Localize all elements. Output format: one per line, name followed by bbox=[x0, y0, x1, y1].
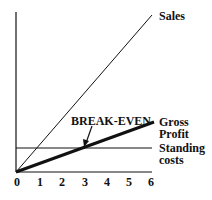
break-even-chart: Sales Gross Profit Standing costs BREAK-… bbox=[0, 0, 212, 200]
break-even-label: BREAK-EVEN bbox=[71, 114, 151, 128]
gross-profit-label-line2: Profit bbox=[159, 127, 189, 141]
x-tick-2: 2 bbox=[59, 175, 65, 189]
x-tick-0: 0 bbox=[14, 175, 20, 189]
sales-label: Sales bbox=[159, 9, 185, 23]
standing-costs-label-line2: costs bbox=[159, 153, 184, 167]
x-tick-3: 3 bbox=[82, 175, 88, 189]
gross-profit-line bbox=[16, 122, 154, 172]
x-tick-6: 6 bbox=[148, 175, 154, 189]
x-tick-5: 5 bbox=[126, 175, 132, 189]
x-tick-1: 1 bbox=[37, 175, 43, 189]
x-tick-4: 4 bbox=[104, 175, 110, 189]
